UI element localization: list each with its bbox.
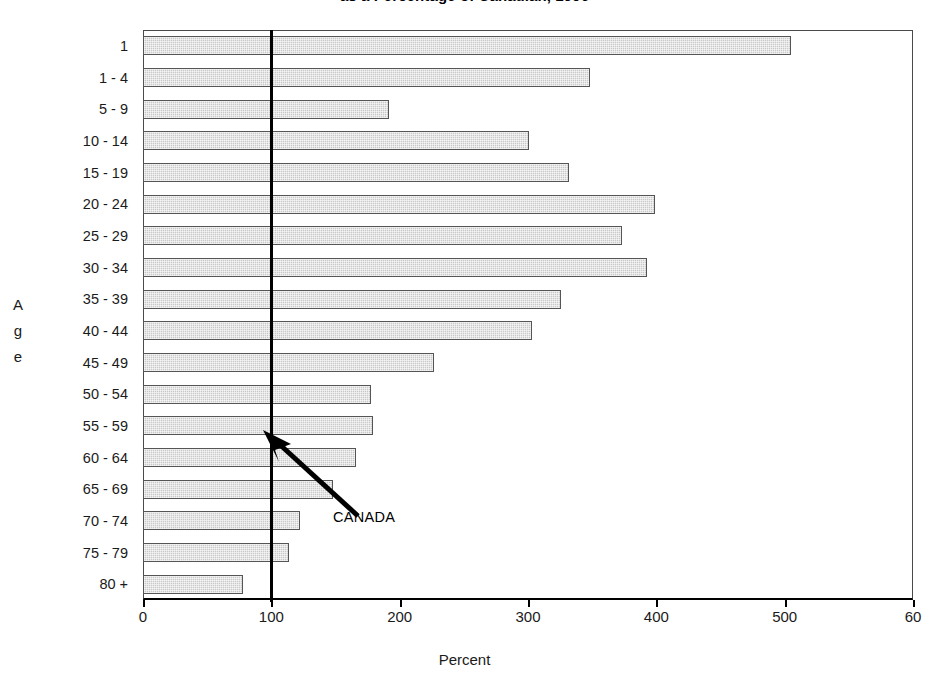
x-axis-tick-label: 300 (515, 608, 540, 625)
y-axis-label: 10 - 14 (10, 133, 138, 149)
bar-slot (143, 575, 913, 594)
bar[interactable] (143, 131, 529, 150)
bar[interactable] (143, 258, 647, 277)
bar-slot (143, 36, 913, 55)
canada-annotation-label: CANADA (333, 509, 395, 525)
bar-slot (143, 163, 913, 182)
y-axis-label: 50 - 54 (10, 386, 138, 402)
chart-title: as a Percentage of Canadian, 1996 (0, 0, 929, 4)
y-axis-label: 1 - 4 (10, 70, 138, 86)
chart-page: as a Percentage of Canadian, 1996 CANADA… (0, 0, 929, 683)
bar[interactable] (143, 163, 569, 182)
bar[interactable] (143, 321, 532, 340)
x-axis-tick-label: 200 (387, 608, 412, 625)
bar-slot (143, 385, 913, 404)
y-axis-label: 75 - 79 (10, 545, 138, 561)
x-axis-tick (143, 600, 145, 607)
bars-layer (143, 30, 913, 600)
bar[interactable] (143, 195, 655, 214)
bar-slot (143, 448, 913, 467)
x-axis-tick (271, 600, 273, 607)
x-axis-tick (400, 600, 402, 607)
x-axis-tick-label: 60 (905, 608, 922, 625)
bar-slot (143, 480, 913, 499)
bar[interactable] (143, 448, 356, 467)
bar-slot (143, 226, 913, 245)
canada-reference-line (270, 30, 273, 602)
bar[interactable] (143, 385, 371, 404)
y-axis-title: A g e (7, 292, 29, 370)
x-axis-tick (785, 600, 787, 607)
y-axis-label: 1 (10, 38, 138, 54)
bar[interactable] (143, 290, 561, 309)
bar-slot (143, 68, 913, 87)
x-axis-tick-label: 0 (139, 608, 147, 625)
y-axis-title-letter-3: e (7, 344, 29, 370)
y-axis-label: 15 - 19 (10, 165, 138, 181)
bar[interactable] (143, 575, 243, 594)
bar-slot (143, 290, 913, 309)
bar[interactable] (143, 416, 373, 435)
y-axis-label: 55 - 59 (10, 418, 138, 434)
y-axis-title-letter-1: A (7, 292, 29, 318)
y-axis-label: 40 - 44 (10, 323, 138, 339)
bar-slot (143, 321, 913, 340)
x-axis-tick-label: 500 (772, 608, 797, 625)
y-axis-label: 25 - 29 (10, 228, 138, 244)
y-axis-label: 60 - 64 (10, 450, 138, 466)
y-axis-label: 5 - 9 (10, 101, 138, 117)
x-axis-tick-label: 400 (644, 608, 669, 625)
x-axis-ticks (143, 600, 913, 608)
y-axis-label: 35 - 39 (10, 291, 138, 307)
x-axis-tick (528, 600, 530, 607)
bar-slot (143, 353, 913, 372)
y-axis-label: 70 - 74 (10, 513, 138, 529)
bar-slot (143, 195, 913, 214)
bar[interactable] (143, 226, 622, 245)
bar-slot (143, 258, 913, 277)
bar-slot (143, 543, 913, 562)
x-axis-tick (913, 600, 915, 607)
y-axis-label: 45 - 49 (10, 355, 138, 371)
x-axis-tick (656, 600, 658, 607)
y-axis-title-letter-2: g (7, 318, 29, 344)
bar[interactable] (143, 511, 300, 530)
bar[interactable] (143, 480, 333, 499)
bar[interactable] (143, 353, 434, 372)
bar-slot (143, 511, 913, 530)
bar[interactable] (143, 36, 791, 55)
bar-slot (143, 416, 913, 435)
y-axis-label: 30 - 34 (10, 260, 138, 276)
bar[interactable] (143, 100, 389, 119)
y-axis-label: 80 + (10, 576, 138, 592)
x-axis-title: Percent (0, 651, 929, 668)
bar-slot (143, 100, 913, 119)
x-axis-tick-label: 100 (259, 608, 284, 625)
x-axis-tick-labels: 010020030040050060 (0, 608, 929, 632)
bar[interactable] (143, 68, 590, 87)
y-axis-label: 20 - 24 (10, 196, 138, 212)
y-axis-label: 65 - 69 (10, 481, 138, 497)
bar[interactable] (143, 543, 289, 562)
bar-slot (143, 131, 913, 150)
